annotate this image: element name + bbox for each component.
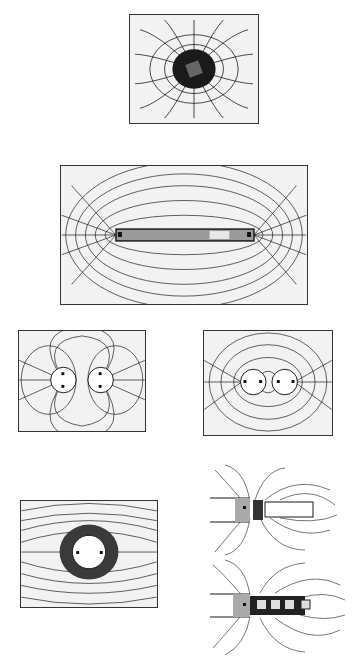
magnet-blocks-field-lines [205, 560, 345, 655]
panel-like-poles: Two circular poles side by side, repelli… [18, 330, 146, 432]
bar-magnet [116, 229, 254, 241]
panel-pole-uniform-field: Single circular pole in a uniform horizo… [20, 500, 158, 608]
magnet-bar-field-lines [205, 470, 340, 555]
single-pole-field-lines [130, 15, 258, 123]
panel-unlike-poles: Two circular poles side by side, attract… [203, 330, 333, 436]
bar-magnet-field-lines [61, 166, 307, 304]
iron-block [271, 600, 280, 609]
panel-bar-magnet: Field lines around a horizontal bar magn… [60, 165, 308, 305]
panel-magnet-with-blocks: Magnet end with a chain of small iron bl… [205, 560, 345, 655]
iron-block [257, 600, 266, 609]
unlike-poles-field-lines [204, 331, 332, 435]
panel-single-pole: Field around a single magnet pole viewed… [129, 14, 259, 124]
uniform-field-lines [21, 501, 157, 607]
iron-block [301, 600, 310, 609]
like-poles-field-lines [19, 331, 145, 431]
panel-magnet-with-bar: Magnet end with an iron bar attached [205, 470, 340, 555]
iron-bar [265, 502, 313, 517]
iron-block [285, 600, 294, 609]
